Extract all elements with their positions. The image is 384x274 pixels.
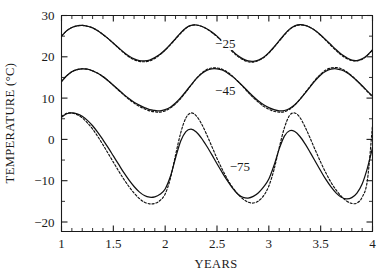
y-tick-label: −20 bbox=[34, 215, 54, 230]
curve-label-depth-75: −75 bbox=[230, 159, 250, 174]
x-axis-title: YEARS bbox=[195, 257, 238, 271]
x-tick-label: 1.5 bbox=[105, 236, 121, 251]
curve-label-depth-25: −25 bbox=[215, 36, 235, 51]
x-axis-tick-labels: 11.522.533.54 bbox=[58, 236, 376, 251]
y-tick-label: 20 bbox=[42, 49, 55, 64]
x-tick-label: 2.5 bbox=[209, 236, 225, 251]
x-tick-label: 3 bbox=[266, 236, 273, 251]
y-tick-label: 30 bbox=[42, 8, 55, 23]
y-tick-label: 10 bbox=[42, 91, 55, 106]
x-tick-label: 2 bbox=[162, 236, 169, 251]
y-axis-tick-labels: 3020100−10−20 bbox=[34, 8, 54, 230]
x-tick-label: 3.5 bbox=[313, 236, 329, 251]
temperature-years-chart-figure: 3020100−10−20 11.522.533.54 −25−45−75 YE… bbox=[0, 0, 384, 274]
curve-solid-75 bbox=[62, 113, 373, 199]
y-axis-title: TEMPERATURE (°C) bbox=[3, 63, 17, 184]
curve-dotted-75 bbox=[62, 113, 373, 204]
y-axis-minor-ticks bbox=[62, 36, 373, 201]
y-tick-label: 0 bbox=[48, 132, 55, 147]
y-tick-label: −10 bbox=[34, 173, 54, 188]
data-curves bbox=[62, 25, 373, 204]
curve-label-depth-45: −45 bbox=[215, 83, 235, 98]
x-tick-label: 4 bbox=[369, 236, 376, 251]
chart-canvas: 3020100−10−20 11.522.533.54 −25−45−75 YE… bbox=[0, 0, 384, 274]
curve-annotations: −25−45−75 bbox=[215, 36, 250, 174]
x-tick-label: 1 bbox=[58, 236, 65, 251]
